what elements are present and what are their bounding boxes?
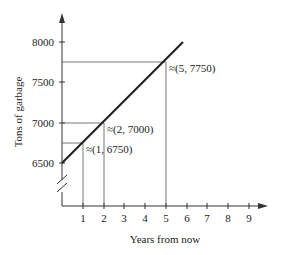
annotation-point-5: ≈(5, 7750) [169, 62, 216, 75]
x-tick-label: 4 [142, 212, 148, 224]
axis-break-mark [57, 183, 67, 192]
y-axis-arrow-icon [59, 13, 65, 23]
garbage-chart: 8000 7500 7000 6500 1 2 3 4 5 6 7 8 9 [0, 0, 285, 255]
y-tick-label: 7500 [32, 76, 55, 88]
y-tick-label: 7000 [32, 117, 55, 129]
x-tick-label: 7 [204, 212, 210, 224]
y-axis-label: Tons of garbage [12, 77, 24, 148]
x-tick-label: 1 [80, 212, 86, 224]
y-tick-label: 8000 [32, 36, 55, 48]
x-tick-label: 8 [225, 212, 231, 224]
annotation-point-2: ≈(2, 7000) [107, 123, 154, 136]
y-tick-label: 6500 [32, 157, 55, 169]
x-tick-label: 6 [184, 212, 190, 224]
x-tick-label: 2 [101, 212, 107, 224]
x-tick-label: 9 [246, 212, 252, 224]
x-tick-label: 3 [121, 212, 127, 224]
x-tick-label: 5 [163, 212, 169, 224]
x-axis-label: Years from now [130, 233, 200, 245]
annotation-point-1: ≈(1, 6750) [86, 143, 133, 156]
x-axis-arrow-icon [258, 203, 268, 209]
